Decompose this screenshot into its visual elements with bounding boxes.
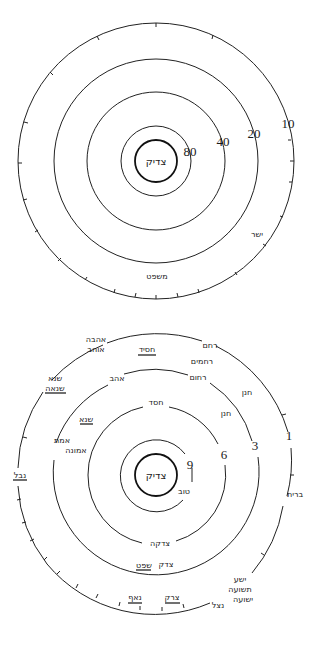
ring-6 <box>176 465 226 541</box>
term-berit: ברית <box>287 490 304 499</box>
term-rehem: רחם <box>202 341 217 350</box>
term-tov: טוב <box>178 487 190 496</box>
ring-label-20: 20 <box>248 126 261 141</box>
term-naaf: נאף <box>128 593 142 602</box>
term-sone: שנא <box>48 374 63 383</box>
ring-3 <box>124 369 188 375</box>
term-tsedek: צדק <box>159 560 174 569</box>
term-hanan-inner: חנן <box>221 409 232 418</box>
term-sinah: שנאה <box>45 384 65 393</box>
ring-label-10: 10 <box>282 116 295 131</box>
ring-label-9: 9 <box>187 457 194 472</box>
ring-6 <box>169 407 218 444</box>
ring-1 <box>107 334 202 343</box>
term-emunah: אמונה <box>65 446 86 455</box>
ring-3 <box>56 385 108 443</box>
term-rahamim: רחמים <box>191 357 213 366</box>
ring-6 <box>88 475 142 543</box>
ring-6 <box>88 407 143 475</box>
term-tsarak: צרק <box>165 593 180 602</box>
term-mishpat: משפט <box>146 272 167 281</box>
ring-label-1: 1 <box>286 428 293 443</box>
term-hanan-outer: חנן <box>242 388 253 397</box>
term-teshuah: תשועה <box>228 585 251 594</box>
ring-1 <box>287 448 292 496</box>
term-sane-inner: שנא <box>79 415 94 424</box>
ring-label-6: 6 <box>221 447 228 462</box>
center-label: צדיק <box>146 156 167 167</box>
term-hesed: חסד <box>149 398 164 407</box>
ring-1 <box>18 392 43 468</box>
ring-1 <box>252 506 283 573</box>
top-concentric-diagram: צדיק 80 40 20 10 ישר משפט <box>0 0 319 320</box>
ring-label-80: 80 <box>184 144 197 159</box>
term-ahav: אהב <box>109 374 124 383</box>
bottom-concentric-diagram: צדיק 9 6 3 1 אהבה אוהב חסיד רחם רחמים רח… <box>0 320 319 647</box>
ring-label-3: 3 <box>252 438 259 453</box>
term-tsedakah: צדקה <box>150 539 170 548</box>
ring-3 <box>53 460 57 500</box>
term-yeshuah: ישועה <box>233 595 253 604</box>
term-natsal: נצל <box>212 601 225 610</box>
term-yashar: ישר <box>251 230 263 239</box>
ring-1 <box>18 486 47 564</box>
term-ohev: אוהב <box>87 345 104 354</box>
term-hasid: חסיד <box>139 345 156 354</box>
term-emet: אמת <box>54 436 70 445</box>
center-label: צדיק <box>146 470 167 481</box>
term-shofet: שפט <box>136 561 152 570</box>
ring-label-40: 40 <box>217 134 230 149</box>
term-yesha: ישע <box>234 575 247 584</box>
term-naval: נבל <box>14 471 26 480</box>
term-ahavah: אהבה <box>86 335 106 344</box>
term-rahum: רחום <box>189 373 206 382</box>
